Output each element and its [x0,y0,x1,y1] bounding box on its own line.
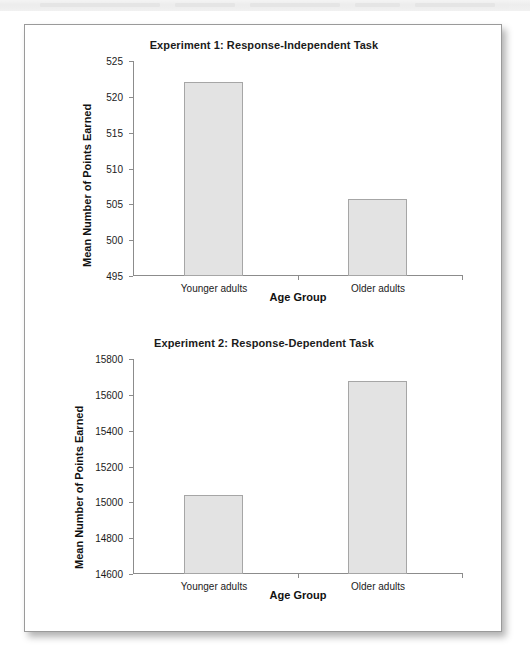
chart-1-title: Experiment 1: Response-Independent Task [25,39,503,51]
chart-2-xtick-mid [298,574,299,578]
chart-2-ytick-14800: 14800 [95,533,123,544]
chart-1-ytick-505: 505 [106,199,123,210]
chart-2-ytick-15000: 15000 [95,497,123,508]
chart-1-ytick-500: 500 [106,235,123,246]
chart-1-plot-area: 495 500 505 510 515 520 525 Younger adul… [133,61,463,276]
chart-experiment-1: Experiment 1: Response-Independent Task … [25,39,503,329]
chart-1-bar-older-adults [348,199,407,276]
chart-experiment-2: Experiment 2: Response-Dependent Task Me… [25,337,503,629]
chart-2-title: Experiment 2: Response-Dependent Task [25,337,503,349]
chart-1-x-axis-title: Age Group [133,291,463,303]
chart-2-ytick-15200: 15200 [95,462,123,473]
chart-2-y-axis-title: Mean Number of Points Earned [73,406,85,569]
scan-header-band [0,0,530,11]
chart-2-bar-younger-adults [184,495,243,574]
chart-1-xtick-mid [298,276,299,280]
chart-1-y-axis-line [133,61,134,276]
chart-2-plot-area: 14600 14800 15000 15200 15400 15600 1580… [133,359,463,574]
chart-1-ytick-515: 515 [106,128,123,139]
chart-1-bar-younger-adults [184,82,243,276]
chart-1-ytick-495: 495 [106,271,123,282]
chart-1-ytick-510: 510 [106,164,123,175]
chart-2-ytick-14600: 14600 [95,569,123,580]
chart-1-ytick-520: 520 [106,92,123,103]
chart-2-x-axis-title: Age Group [133,589,463,601]
chart-1-ytick-525: 525 [106,56,123,67]
chart-2-y-axis-line [133,359,134,574]
chart-2-ytick-15800: 15800 [95,354,123,365]
chart-1-y-axis-title: Mean Number of Points Earned [81,104,93,267]
chart-1-xtick-end [462,276,463,280]
chart-2-ytick-15600: 15600 [95,390,123,401]
chart-2-xtick-end [462,574,463,578]
figure-page: Experiment 1: Response-Independent Task … [24,24,502,632]
chart-2-bar-older-adults [348,381,407,574]
chart-2-ytick-15400: 15400 [95,426,123,437]
